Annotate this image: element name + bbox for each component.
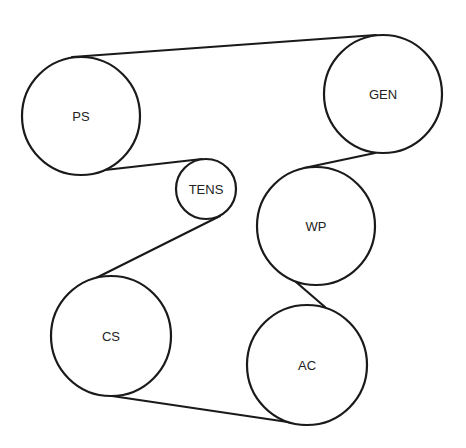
pulley-ps: PS <box>22 57 140 175</box>
pulley-label: AC <box>298 358 316 373</box>
pulley-label: CS <box>102 329 120 344</box>
pulley-gen: GEN <box>324 35 442 153</box>
pulley-label: TENS <box>189 182 224 197</box>
pulleys: PSGENTENSWPCSAC <box>22 35 442 425</box>
pulley-cs: CS <box>51 276 171 396</box>
belt-segment-ps-gen <box>72 35 376 57</box>
belt-routing-diagram: PSGENTENSWPCSAC <box>0 0 466 448</box>
pulley-ac: AC <box>247 305 367 425</box>
pulley-wp: WP <box>257 167 375 285</box>
pulley-label: PS <box>72 109 90 124</box>
pulley-label: WP <box>306 219 327 234</box>
pulley-tens: TENS <box>176 159 236 219</box>
belt-segment-gen-wp <box>304 153 375 168</box>
pulley-label: GEN <box>369 87 397 102</box>
belt-segment-cs-tens <box>96 216 220 278</box>
